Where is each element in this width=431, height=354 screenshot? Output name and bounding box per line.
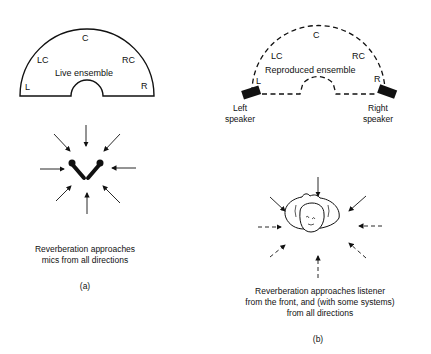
- caption-b: Reverberation approaches listener from t…: [225, 286, 415, 319]
- caption-a-line2: mics from all directions: [20, 255, 150, 266]
- position-label-lc-b: LC: [271, 51, 283, 61]
- caption-a: Reverberation approaches mics from all d…: [20, 244, 150, 266]
- caption-b-line3: from all directions: [225, 308, 415, 319]
- caption-b-line1: Reverberation approaches listener: [225, 286, 415, 297]
- reproduced-ensemble-label: Reproduced ensemble: [265, 65, 356, 75]
- position-label-c-a: C: [82, 33, 89, 43]
- position-label-r-b: R: [374, 74, 381, 84]
- right-speaker-label: Right speaker: [356, 103, 400, 125]
- position-label-l-b: L: [256, 76, 261, 86]
- right-speaker-icon: [377, 84, 397, 99]
- position-label-rc-b: RC: [352, 51, 365, 61]
- position-label-l-a: L: [25, 82, 30, 92]
- listener-icon: [285, 194, 339, 232]
- left-speaker-label: Left speaker: [220, 103, 260, 125]
- caption-a-line1: Reverberation approaches: [20, 244, 150, 255]
- position-label-rc-a: RC: [122, 55, 135, 65]
- panel-label-b: (b): [303, 334, 333, 345]
- live-ensemble-label: Live ensemble: [55, 68, 113, 78]
- caption-b-line2: from the front, and (with some systems): [225, 297, 415, 308]
- panel-label-a: (a): [70, 281, 100, 292]
- microphone-pair-icon: [69, 160, 104, 179]
- reverberation-arrows-a: [40, 125, 136, 214]
- position-label-r-a: R: [141, 81, 148, 91]
- left-speaker-icon: [241, 85, 261, 99]
- reverberation-arrows-b-surround: [258, 226, 382, 278]
- position-label-c-b: C: [313, 30, 320, 40]
- position-label-lc-a: LC: [37, 55, 49, 65]
